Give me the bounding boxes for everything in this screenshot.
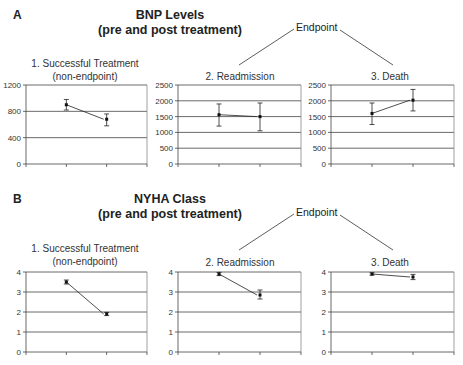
y-tick-label: 500	[313, 144, 327, 153]
y-tick-label: 2	[169, 308, 174, 317]
y-tick-label: 2	[17, 308, 22, 317]
y-tick-label: 4	[17, 268, 22, 277]
y-tick-label: 3	[322, 288, 327, 297]
y-tick-label: 1000	[308, 128, 326, 137]
endpoint-connector-a	[239, 29, 393, 65]
y-tick-label: 800	[8, 107, 22, 116]
y-tick-label: 500	[160, 144, 174, 153]
y-tick-label: 2500	[155, 81, 173, 90]
y-tick-label: 2	[322, 308, 327, 317]
y-tick-label: 0	[17, 160, 22, 169]
data-point	[259, 115, 262, 118]
y-tick-label: 4	[322, 268, 327, 277]
line-chart-3: 05001000150020002500	[308, 81, 454, 169]
y-tick-label: 3	[169, 288, 174, 297]
y-tick-label: 4	[169, 268, 174, 277]
charts-canvas: 0400800120005001000150020002500050010001…	[0, 0, 463, 365]
y-tick-label: 1500	[155, 113, 173, 122]
data-point	[218, 113, 221, 116]
y-tick-label: 1200	[3, 81, 21, 90]
line-chart-4: 01234	[17, 268, 147, 357]
y-tick-label: 2000	[155, 97, 173, 106]
data-point	[65, 281, 68, 284]
line-chart-2: 05001000150020002500	[155, 81, 301, 169]
endpoint-connector-b	[239, 214, 393, 250]
data-point	[371, 273, 374, 276]
data-point	[105, 118, 108, 121]
y-tick-label: 1	[169, 328, 174, 337]
line-chart-6: 01234	[322, 268, 454, 357]
y-tick-label: 1	[17, 328, 22, 337]
y-tick-label: 1500	[308, 113, 326, 122]
y-tick-label: 0	[322, 348, 327, 357]
data-point	[412, 99, 415, 102]
y-tick-label: 400	[8, 134, 22, 143]
data-point	[371, 112, 374, 115]
y-tick-label: 0	[169, 348, 174, 357]
y-tick-label: 0	[322, 160, 327, 169]
data-point	[65, 103, 68, 106]
y-tick-label: 2500	[308, 81, 326, 90]
data-point	[259, 294, 262, 297]
y-tick-label: 0	[169, 160, 174, 169]
y-tick-label: 0	[17, 348, 22, 357]
line-chart-5: 01234	[169, 268, 301, 357]
y-tick-label: 1	[322, 328, 327, 337]
data-point	[105, 313, 108, 316]
data-point	[412, 276, 415, 279]
y-tick-label: 3	[17, 288, 22, 297]
data-point	[218, 273, 221, 276]
line-chart-1: 04008001200	[3, 81, 147, 169]
y-tick-label: 2000	[308, 97, 326, 106]
y-tick-label: 1000	[155, 128, 173, 137]
